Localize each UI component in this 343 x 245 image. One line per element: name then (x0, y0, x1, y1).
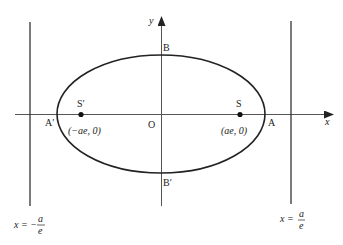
ellipse-diagram: y x O B B′ A′ A S′ S (−ae, 0) (ae, 0) x … (0, 0, 343, 245)
focus-s-prime-label: S′ (77, 98, 85, 109)
x-axis-label: x (324, 116, 330, 127)
vertex-a-label: A (268, 117, 276, 128)
focus-s-prime-point (78, 112, 83, 117)
right-directrix-denominator: e (299, 220, 304, 231)
focus-s-label: S (236, 98, 242, 109)
right-directrix-lhs: x = (279, 213, 294, 224)
origin-label: O (148, 119, 155, 130)
right-directrix-equation: x = a e (279, 208, 305, 231)
focus-s-prime-coord: (−ae, 0) (68, 125, 102, 137)
focus-s-coord: (ae, 0) (221, 125, 248, 137)
vertex-b-prime-label: B′ (163, 177, 172, 188)
left-directrix-equation: x = − a e (13, 213, 45, 236)
vertex-a-prime-label: A′ (45, 117, 54, 128)
vertex-b-label: B (163, 42, 170, 53)
left-directrix-lhs: x = − (13, 219, 37, 230)
y-axis-label: y (148, 15, 154, 26)
right-directrix-numerator: a (299, 208, 304, 219)
left-directrix-numerator: a (38, 213, 43, 224)
focus-s-point (237, 112, 242, 117)
left-directrix-denominator: e (38, 225, 43, 236)
